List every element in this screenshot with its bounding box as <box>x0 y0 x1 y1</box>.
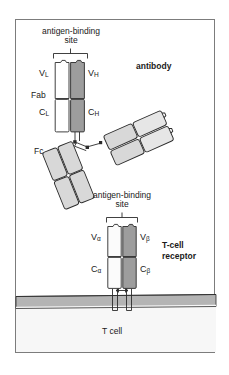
fab-right <box>103 109 176 165</box>
antigen-binding-bracket-tcr <box>107 213 138 223</box>
antigen-binding-bracket-antibody <box>54 49 88 59</box>
domain-vh <box>71 60 85 98</box>
domain-v-beta <box>123 224 136 256</box>
domain-vl <box>55 60 69 98</box>
disulfide-bond-3 <box>99 141 102 144</box>
immunology-diagram: antigen-binding site antibody VL VH Fab … <box>0 0 229 375</box>
tcell-receptor <box>108 224 136 292</box>
diagram-canvas <box>0 0 229 375</box>
domain-cl <box>55 99 69 131</box>
domain-v-alpha <box>108 224 121 256</box>
domain-c-alpha <box>108 257 121 288</box>
fab-left <box>55 60 84 131</box>
fc-region <box>42 141 95 210</box>
tcell-body <box>16 305 216 352</box>
domain-c-beta <box>123 257 136 288</box>
domain-ch <box>71 99 85 131</box>
hinge-region <box>73 132 102 151</box>
